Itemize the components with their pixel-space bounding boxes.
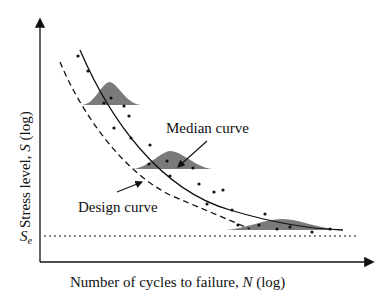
design-curve-pointer	[117, 182, 142, 192]
distribution-3	[226, 219, 343, 230]
y-axis-label: Stress level, S (log)	[17, 111, 34, 228]
design-curve-label: Design curve	[78, 199, 158, 215]
median-curve-label: Median curve	[166, 120, 249, 136]
x-axis-label: Number of cycles to failure, N (log)	[70, 274, 285, 291]
distribution-1	[82, 82, 141, 105]
endurance-limit-label: Se	[20, 228, 33, 246]
sn-diagram: Median curve Design curve Se Number of c…	[0, 0, 391, 307]
